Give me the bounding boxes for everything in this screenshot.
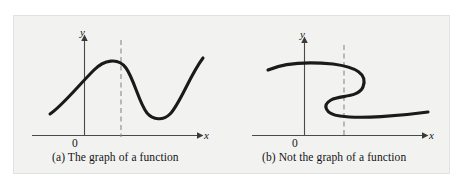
panel-b-y-axis-label: y <box>299 28 305 40</box>
panel-b-origin-label: 0 <box>292 137 298 149</box>
panel-a-caption: (a) The graph of a function <box>52 151 179 163</box>
panel-b-curve <box>268 63 428 117</box>
panel-b-group: x y 0 <box>252 28 434 149</box>
panel-a-origin-label: 0 <box>72 137 78 149</box>
panel-b-x-axis-label: x <box>428 129 434 141</box>
panel-a-y-axis-label: y <box>79 26 85 38</box>
panel-b-caption: (b) Not the graph of a function <box>262 151 406 163</box>
figure-container: x y 0 x y 0 (a) The graph of a function … <box>0 0 462 188</box>
panel-a-x-axis-label: x <box>203 129 209 141</box>
panel-a-curve <box>50 58 203 119</box>
panel-a-group: x y 0 <box>32 26 209 149</box>
